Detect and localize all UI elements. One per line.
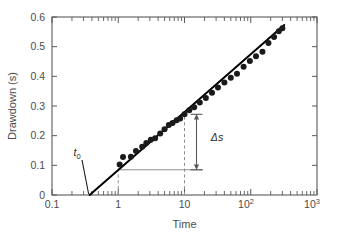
drawdown-vs-time-chart: 00.10.20.30.40.50.6 0.1 1 10 102 103 Tim…	[0, 0, 339, 238]
y-tick-label-5: 0.5	[30, 40, 45, 52]
data-point-18	[203, 95, 209, 101]
data-point-25	[247, 58, 253, 64]
data-point-2	[128, 154, 134, 160]
data-point-22	[228, 75, 234, 81]
delta-s-arrow	[191, 114, 203, 169]
data-point-8	[157, 131, 163, 137]
t0-leader-segment	[82, 160, 89, 194]
x-tick-label-2: 10	[179, 198, 191, 210]
y-axis-tick-labels: 00.10.20.30.40.50.6	[30, 11, 45, 201]
data-point-19	[209, 90, 215, 96]
y-axis-title: Drawdown (s)	[6, 72, 18, 140]
y-axis-ticks-left	[52, 17, 57, 195]
data-point-27	[259, 49, 265, 55]
data-point-20	[215, 85, 221, 91]
t0-leader-line	[82, 160, 89, 194]
data-point-7	[152, 135, 158, 141]
plot-frame	[52, 17, 317, 195]
data-point-3	[133, 148, 139, 154]
delta-s-arrowhead-top	[194, 114, 199, 119]
t0-label: t0	[73, 146, 80, 161]
data-point-31	[279, 25, 285, 31]
x-tick-label-3: 102	[238, 197, 254, 210]
data-point-0	[117, 161, 123, 167]
x-tick-label-0: 0.1	[45, 198, 60, 210]
data-point-21	[221, 80, 227, 86]
y-tick-label-1: 0.1	[30, 159, 45, 171]
data-point-16	[191, 104, 197, 110]
data-point-13	[177, 115, 183, 121]
x-axis-ticks-top	[52, 17, 317, 23]
x-tick-label-4: 103	[304, 197, 320, 210]
y-tick-label-6: 0.6	[30, 11, 45, 23]
data-point-29	[271, 34, 277, 40]
delta-s-arrowhead-bottom	[194, 165, 199, 170]
delta-s-label: Δs	[210, 131, 224, 143]
figure-container: 00.10.20.30.40.50.6 0.1 1 10 102 103 Tim…	[0, 0, 339, 238]
y-tick-label-4: 0.4	[30, 70, 45, 82]
y-axis-ticks-right	[312, 17, 317, 165]
data-point-1	[120, 154, 126, 160]
data-point-17	[197, 99, 203, 105]
data-point-23	[234, 71, 240, 77]
x-axis-tick-labels: 0.1 1 10 102 103	[45, 197, 320, 210]
x-tick-label-1: 1	[115, 198, 121, 210]
data-point-28	[265, 40, 271, 46]
data-point-26	[253, 53, 259, 59]
data-point-24	[241, 64, 247, 70]
data-point-14	[182, 111, 188, 117]
y-tick-label-3: 0.3	[30, 100, 45, 112]
x-axis-title: Time	[172, 218, 196, 230]
y-tick-label-2: 0.2	[30, 129, 45, 141]
